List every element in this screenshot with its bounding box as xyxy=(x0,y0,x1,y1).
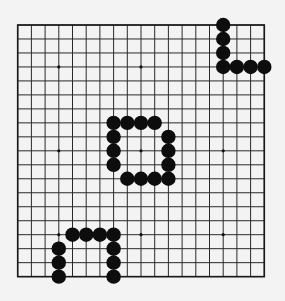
black-stone xyxy=(106,144,120,158)
star-point xyxy=(57,65,60,68)
star-point xyxy=(57,149,60,152)
black-stone xyxy=(79,228,93,242)
black-stone xyxy=(230,60,244,74)
black-stone xyxy=(216,46,230,60)
black-stone xyxy=(106,116,120,130)
star-point xyxy=(139,149,142,152)
black-stone xyxy=(106,130,120,144)
black-stone xyxy=(52,241,66,255)
black-stone xyxy=(134,172,148,186)
black-stone xyxy=(106,269,120,283)
black-stone xyxy=(134,116,148,130)
star-point xyxy=(222,233,225,236)
black-stone xyxy=(106,158,120,172)
go-board-diagram xyxy=(0,0,285,301)
star-point xyxy=(222,149,225,152)
black-stone xyxy=(106,255,120,269)
black-stone xyxy=(161,130,175,144)
black-stone xyxy=(216,32,230,46)
star-point xyxy=(139,65,142,68)
star-point xyxy=(139,233,142,236)
black-stone xyxy=(161,172,175,186)
black-stone xyxy=(52,269,66,283)
black-stone xyxy=(161,158,175,172)
black-stone xyxy=(120,116,134,130)
black-stone xyxy=(106,241,120,255)
stone-group-top-right xyxy=(216,18,271,74)
black-stone xyxy=(120,172,134,186)
star-point xyxy=(57,233,60,236)
black-stone xyxy=(216,60,230,74)
black-stone xyxy=(243,60,257,74)
black-stone xyxy=(148,116,162,130)
black-stone xyxy=(161,144,175,158)
black-stone xyxy=(65,228,79,242)
black-stone xyxy=(106,228,120,242)
black-stone xyxy=(216,18,230,32)
black-stone xyxy=(52,255,66,269)
black-stone xyxy=(257,60,271,74)
black-stone xyxy=(148,172,162,186)
black-stone xyxy=(93,228,107,242)
